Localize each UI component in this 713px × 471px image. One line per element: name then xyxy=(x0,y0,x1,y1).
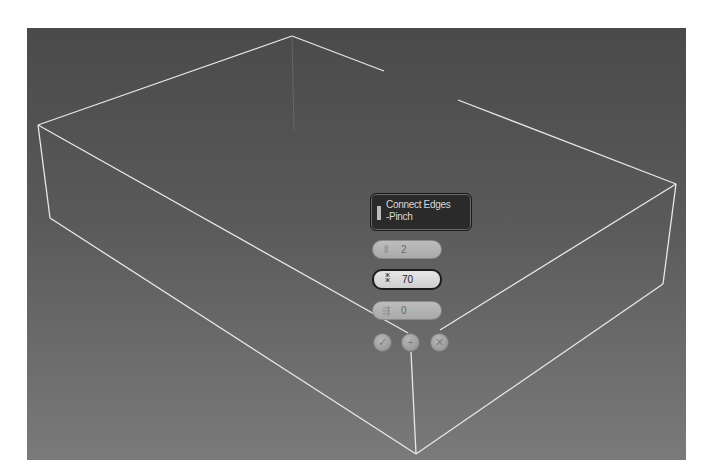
slide-icon: ⇶ xyxy=(381,305,391,317)
apply-and-continue-button[interactable]: + xyxy=(401,333,420,352)
pinch-icon: ⁑ xyxy=(382,273,392,285)
close-icon: ✕ xyxy=(435,336,444,348)
caddy-header[interactable]: Connect Edges -Pinch xyxy=(370,193,472,231)
caddy-overlay: Connect Edges -Pinch ⦀ 2 ⁑ 70 ⇶ 0 ✓ + ✕ xyxy=(0,0,713,471)
caddy-title-line2: -Pinch xyxy=(386,211,450,223)
caddy-title-line1: Connect Edges xyxy=(386,199,450,211)
pinch-value[interactable]: 70 xyxy=(402,273,413,286)
caddy-title: Connect Edges -Pinch xyxy=(386,199,450,223)
plus-icon: + xyxy=(407,336,413,348)
pinch-field[interactable]: ⁑ 70 xyxy=(372,269,442,290)
slide-field[interactable]: ⇶ 0 xyxy=(372,301,442,320)
ok-button[interactable]: ✓ xyxy=(373,333,392,352)
3d-viewport[interactable]: Connect Edges -Pinch ⦀ 2 ⁑ 70 ⇶ 0 ✓ + ✕ xyxy=(27,28,686,460)
cancel-button[interactable]: ✕ xyxy=(430,333,449,352)
segments-icon: ⦀ xyxy=(381,244,391,256)
slide-value[interactable]: 0 xyxy=(401,304,407,317)
segments-field[interactable]: ⦀ 2 xyxy=(372,240,442,259)
checkmark-icon: ✓ xyxy=(378,336,387,348)
segments-value[interactable]: 2 xyxy=(401,243,407,256)
drag-handle-icon[interactable] xyxy=(377,206,381,220)
